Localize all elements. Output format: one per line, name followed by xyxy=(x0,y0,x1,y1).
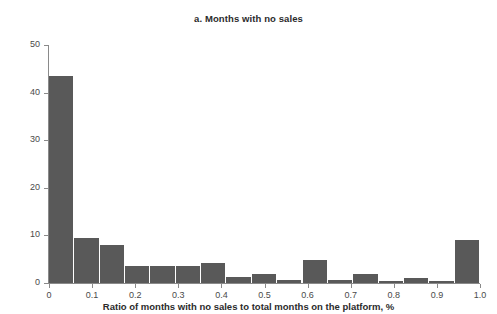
x-tick-label: 0.2 xyxy=(115,290,155,300)
x-tick-label: 0.7 xyxy=(331,290,371,300)
bar xyxy=(455,240,479,283)
bar xyxy=(100,245,124,283)
x-tick-label: 0 xyxy=(29,290,69,300)
x-tick-label: 0.9 xyxy=(417,290,457,300)
x-tick-label: 0.6 xyxy=(288,290,328,300)
y-tick-mark xyxy=(44,140,48,141)
bar xyxy=(74,238,98,283)
panel-title: a. Months with no sales xyxy=(0,13,497,24)
bar xyxy=(303,260,327,283)
x-tick-mark xyxy=(437,284,438,288)
bar xyxy=(125,266,149,283)
y-tick-label: 30 xyxy=(0,135,40,144)
y-tick-mark xyxy=(44,93,48,94)
x-tick-mark xyxy=(394,284,395,288)
y-tick-label: 20 xyxy=(0,183,40,192)
bar xyxy=(353,274,377,283)
y-tick-label: 0 xyxy=(0,278,40,287)
bar xyxy=(150,266,174,283)
x-tick-label: 0.5 xyxy=(245,290,285,300)
y-tick-label: 50 xyxy=(0,40,40,49)
x-tick-label: 0.1 xyxy=(72,290,112,300)
x-axis-label: Ratio of months with no sales to total m… xyxy=(0,301,497,312)
bar xyxy=(379,281,403,283)
chart-figure: a. Months with no sales 01020304050 00.1… xyxy=(0,0,497,314)
bar xyxy=(429,281,453,283)
x-tick-mark xyxy=(221,284,222,288)
x-tick-label: 0.8 xyxy=(374,290,414,300)
x-tick-mark xyxy=(265,284,266,288)
x-tick-label: 1.0 xyxy=(460,290,497,300)
bar xyxy=(328,280,352,283)
y-tick-label: 40 xyxy=(0,88,40,97)
bar-series xyxy=(49,45,480,283)
x-tick-label: 0.3 xyxy=(158,290,198,300)
bar xyxy=(404,278,428,283)
x-tick-mark xyxy=(49,284,50,288)
y-tick-mark xyxy=(44,235,48,236)
y-tick-mark xyxy=(44,188,48,189)
y-tick-mark xyxy=(44,283,48,284)
clipped-top-title xyxy=(86,0,346,3)
x-tick-mark xyxy=(308,284,309,288)
x-tick-label: 0.4 xyxy=(201,290,241,300)
bar xyxy=(49,76,73,283)
x-tick-mark xyxy=(351,284,352,288)
x-tick-mark xyxy=(178,284,179,288)
y-tick-mark xyxy=(44,45,48,46)
x-tick-mark xyxy=(135,284,136,288)
bar xyxy=(176,266,200,283)
bar xyxy=(277,280,301,283)
x-tick-mark xyxy=(92,284,93,288)
bar xyxy=(201,263,225,283)
y-tick-label: 10 xyxy=(0,230,40,239)
bar xyxy=(226,277,250,283)
x-tick-mark xyxy=(480,284,481,288)
bar xyxy=(252,274,276,283)
